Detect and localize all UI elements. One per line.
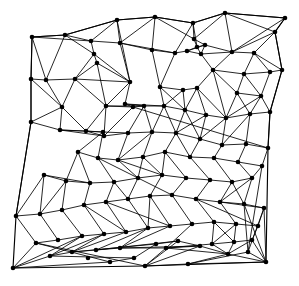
mesh-node	[223, 11, 228, 16]
mesh-node	[250, 238, 255, 243]
mesh-node	[118, 246, 123, 251]
mesh-node	[183, 108, 188, 113]
mesh-node	[203, 43, 208, 48]
mesh-node	[250, 176, 255, 181]
mesh-svg	[0, 0, 299, 286]
mesh-node	[56, 238, 61, 243]
mesh-node	[29, 120, 34, 125]
mesh-node	[173, 51, 178, 56]
mesh-node	[102, 134, 107, 139]
mesh-node	[95, 61, 100, 66]
mesh-node	[235, 91, 240, 96]
mesh-node	[154, 242, 159, 247]
mesh-node	[84, 129, 89, 134]
mesh-node	[80, 234, 85, 239]
mesh-node	[199, 52, 204, 57]
mesh-node	[168, 224, 173, 229]
mesh-node	[82, 203, 87, 208]
mesh-node	[118, 41, 123, 46]
mesh-node	[204, 113, 209, 118]
mesh-node	[101, 130, 106, 135]
mesh-node	[185, 49, 190, 54]
mesh-node	[280, 68, 285, 73]
mesh-node	[104, 200, 109, 205]
mesh-node	[142, 104, 147, 109]
mesh-node	[230, 50, 235, 55]
mesh-node	[104, 104, 109, 109]
mesh-node	[190, 222, 195, 227]
mesh-node	[108, 260, 113, 265]
mesh-node	[38, 212, 43, 217]
mesh-node	[242, 72, 247, 77]
mesh-node	[126, 197, 131, 202]
mesh-node	[123, 102, 128, 107]
mesh-node	[186, 262, 191, 267]
mesh-node	[92, 52, 97, 57]
mesh-node	[234, 222, 239, 227]
mesh-node	[244, 142, 249, 147]
mesh-node	[14, 214, 19, 219]
mesh-node	[88, 181, 93, 186]
mesh-node	[86, 256, 91, 261]
mesh-node	[192, 37, 197, 42]
mesh-node	[153, 15, 158, 20]
mesh-node	[48, 254, 53, 259]
mesh-node	[94, 248, 99, 253]
mesh-node	[268, 110, 273, 115]
mesh-node	[195, 86, 200, 91]
mesh-node	[174, 131, 179, 136]
mesh-node	[64, 179, 69, 184]
mesh-node	[44, 78, 49, 83]
mesh-node	[220, 143, 225, 148]
mesh-node	[260, 164, 265, 169]
mesh-node	[283, 16, 288, 21]
mesh-node	[163, 150, 168, 155]
mesh-node	[252, 51, 257, 56]
mesh-node	[191, 21, 196, 26]
mesh-node	[170, 193, 175, 198]
mesh-node	[212, 220, 217, 225]
mesh-node	[60, 105, 65, 110]
mesh-node	[116, 158, 121, 163]
mesh-node	[248, 112, 253, 117]
mesh-node	[164, 246, 169, 251]
mesh-node	[162, 104, 167, 109]
mesh-node	[29, 77, 34, 82]
mesh-node	[102, 232, 107, 237]
mesh-node	[198, 244, 203, 249]
mesh-node	[60, 208, 65, 213]
mesh-node	[30, 35, 35, 40]
mesh-node	[273, 30, 278, 35]
mesh-node	[236, 160, 241, 165]
mesh-node	[148, 194, 153, 199]
mesh-node	[128, 80, 133, 85]
mesh-node	[212, 156, 217, 161]
mesh-node	[42, 173, 47, 178]
mesh-node	[131, 105, 136, 110]
mesh-node	[146, 226, 151, 231]
mesh-node	[218, 200, 223, 205]
mesh-node	[126, 131, 131, 136]
mesh-node	[132, 256, 137, 261]
mesh-node	[264, 260, 269, 265]
mesh-node	[224, 116, 229, 121]
mesh-node	[115, 18, 120, 23]
mesh-node	[11, 266, 16, 271]
mesh-node	[112, 180, 117, 185]
mesh-node	[195, 45, 200, 50]
mesh-node	[194, 197, 199, 202]
mesh-node	[184, 176, 189, 181]
mesh-node	[58, 128, 63, 133]
mesh-node	[246, 250, 251, 255]
mesh-node	[136, 176, 141, 181]
mesh-node	[160, 173, 165, 178]
mesh-node	[70, 250, 75, 255]
mesh-node	[181, 88, 186, 93]
mesh-node	[232, 240, 237, 245]
mesh-figure	[0, 0, 299, 286]
mesh-node	[141, 155, 146, 160]
mesh-node	[268, 70, 273, 75]
mesh-node	[176, 239, 181, 244]
mesh-node	[73, 77, 78, 82]
mesh-node	[198, 137, 203, 142]
